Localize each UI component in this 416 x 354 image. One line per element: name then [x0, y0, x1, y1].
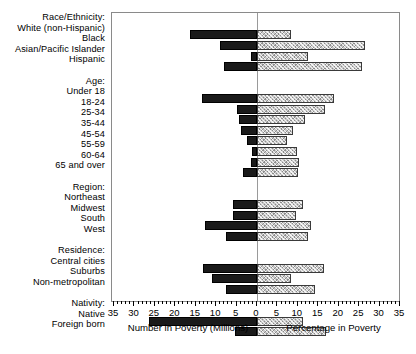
axis-tick — [264, 301, 265, 304]
axis-tick — [252, 301, 253, 304]
axis-tick — [354, 301, 355, 304]
axis-tick-label: 25 — [143, 307, 165, 318]
bar-percent-60-64 — [257, 158, 299, 167]
row-label-northeast: Northeast — [0, 192, 108, 203]
axis-tick-label: 15 — [306, 307, 328, 318]
poverty-bidirectional-bar-chart: Race/Ethnicity:White (non-Hispanic)Black… — [0, 0, 416, 354]
row-label-non-metropolitan: Non-metropolitan — [0, 277, 108, 288]
axis-tick — [293, 301, 294, 304]
bar-percent-northeast — [257, 200, 303, 209]
row-label-25-34: 25-34 — [0, 107, 108, 118]
bar-number-black — [220, 41, 257, 50]
axis-tick — [305, 301, 306, 304]
axis-tick — [211, 301, 212, 304]
axis-tick — [178, 301, 179, 304]
axis-tick-label: 0 — [245, 307, 267, 318]
axis-tick — [223, 301, 224, 304]
group-header-race-ethnicity: Race/Ethnicity: — [0, 12, 108, 23]
axis-tick — [133, 301, 134, 306]
axis-tick — [334, 301, 335, 304]
axis-title-right: Percentage in Poverty — [261, 322, 406, 334]
row-label-central-cities: Central cities — [0, 256, 108, 267]
bar-number-central-cities — [203, 264, 257, 273]
axis-tick — [268, 301, 269, 304]
row-label-suburbs: Suburbs — [0, 266, 108, 277]
label-spacer — [0, 287, 108, 298]
bar-percent-white-non-hispanic — [257, 30, 291, 39]
bar-percent-65-and-over — [257, 168, 298, 177]
axis-tick — [289, 301, 290, 304]
axis-tick — [276, 301, 277, 306]
axis-tick — [240, 301, 241, 304]
group-header-nativity: Nativity: — [0, 298, 108, 309]
row-label-midwest: Midwest — [0, 203, 108, 214]
axis-tick — [338, 301, 339, 306]
axis-tick — [309, 301, 310, 304]
row-label-35-44: 35-44 — [0, 118, 108, 129]
axis-tick-label: 5 — [265, 307, 287, 318]
axis-tick — [366, 301, 367, 304]
axis-tick — [113, 301, 114, 306]
axis-tick — [346, 301, 347, 304]
row-label-55-59: 55-59 — [0, 139, 108, 150]
row-label-asian-pacific-islander: Asian/Pacific Islander — [0, 44, 108, 55]
axis-tick-label: 15 — [184, 307, 206, 318]
plot-area — [111, 12, 400, 302]
axis-tick — [330, 301, 331, 304]
axis-tick-label: 20 — [327, 307, 349, 318]
bar-percent-under-18 — [257, 94, 334, 103]
axis-tick — [150, 301, 151, 304]
bar-number-midwest — [233, 211, 257, 220]
axis-tick — [391, 301, 392, 304]
bar-number-suburbs — [212, 274, 257, 283]
axis-tick-label: 20 — [163, 307, 185, 318]
axis-tick — [342, 301, 343, 304]
axis-tick — [248, 301, 249, 304]
bar-number-non-metropolitan — [226, 285, 257, 294]
axis-title-left: Number in Poverty (Millions) — [113, 322, 263, 334]
bar-number-south — [205, 221, 257, 230]
row-label-west: West — [0, 224, 108, 235]
axis-tick — [117, 301, 118, 304]
row-label-south: South — [0, 213, 108, 224]
axis-tick — [142, 301, 143, 304]
bar-number-white-non-hispanic — [190, 30, 257, 39]
axis-tick — [236, 301, 237, 306]
axis-tick-label: 10 — [204, 307, 226, 318]
axis-tick-label: 25 — [347, 307, 369, 318]
axis-tick — [138, 301, 139, 304]
bar-percent-central-cities — [257, 264, 324, 273]
axis-tick — [244, 301, 245, 304]
axis-tick-label: 5 — [225, 307, 247, 318]
bar-percent-25-34 — [257, 115, 305, 124]
axis-tick — [121, 301, 122, 304]
bar-percent-18-24 — [257, 105, 325, 114]
axis-tick — [325, 301, 326, 304]
axis-tick — [374, 301, 375, 304]
row-label-45-54: 45-54 — [0, 129, 108, 140]
axis-tick-label: 30 — [368, 307, 390, 318]
axis-tick — [219, 301, 220, 304]
axis-tick — [321, 301, 322, 304]
bar-percent-45-54 — [257, 136, 287, 145]
axis-tick — [182, 301, 183, 304]
axis-tick — [281, 301, 282, 304]
axis-tick — [256, 301, 257, 306]
label-spacer — [0, 234, 108, 245]
axis-tick — [195, 301, 196, 306]
axis-tick — [166, 301, 167, 304]
row-label-18-24: 18-24 — [0, 97, 108, 108]
group-header-residence: Residence: — [0, 245, 108, 256]
axis-tick — [187, 301, 188, 304]
axis-tick — [370, 301, 371, 304]
axis-tick — [313, 301, 314, 304]
bar-percent-55-59 — [257, 147, 297, 156]
axis-tick — [297, 301, 298, 306]
group-header-region: Region: — [0, 182, 108, 193]
axis-tick — [350, 301, 351, 304]
bar-number-under-18 — [202, 94, 257, 103]
bar-number-25-34 — [239, 115, 257, 124]
row-label-65-and-over: 65 and over — [0, 160, 108, 171]
axis-tick — [399, 301, 400, 306]
axis-tick — [146, 301, 147, 304]
